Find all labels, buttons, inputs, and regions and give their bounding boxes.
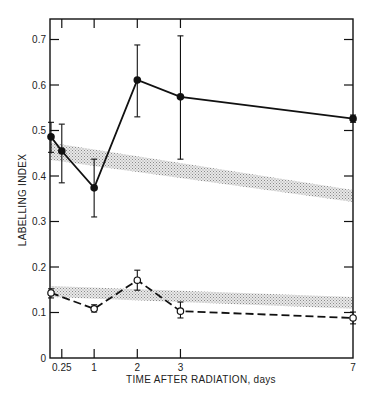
data-point <box>48 290 54 296</box>
y-tick-label: 0.1 <box>32 307 46 318</box>
data-point <box>90 184 98 192</box>
x-tick-label: 0.25 <box>52 362 72 373</box>
y-tick-label: 0 <box>40 353 46 364</box>
y-tick-label: 0.5 <box>32 125 46 136</box>
y-tick-label: 0.7 <box>32 34 46 45</box>
y-tick-label: 0.3 <box>32 216 46 227</box>
y-tick-label: 0.4 <box>32 171 46 182</box>
data-point <box>134 76 142 84</box>
x-tick-label: 2 <box>135 362 141 373</box>
x-tick-label: 3 <box>178 362 184 373</box>
data-point <box>350 315 356 321</box>
data-point <box>58 147 66 155</box>
data-point <box>177 93 185 101</box>
y-tick-label: 0.6 <box>32 80 46 91</box>
data-point <box>349 115 357 123</box>
y-axis-title: LABELLING INDEX <box>17 154 28 246</box>
x-tick-label: 7 <box>350 362 356 373</box>
data-point <box>91 306 97 312</box>
upper-control-band <box>51 143 353 202</box>
x-axis-title: TIME AFTER RADIATION, days <box>126 374 276 385</box>
lower-control-band <box>51 286 353 309</box>
data-point <box>134 277 140 283</box>
x-tick-label: 1 <box>91 362 97 373</box>
data-point <box>47 133 55 141</box>
labelling-index-chart: 0.25123700.10.20.30.40.50.60.7 TIME AFTE… <box>0 0 376 396</box>
data-point <box>177 308 183 314</box>
y-tick-label: 0.2 <box>32 262 46 273</box>
